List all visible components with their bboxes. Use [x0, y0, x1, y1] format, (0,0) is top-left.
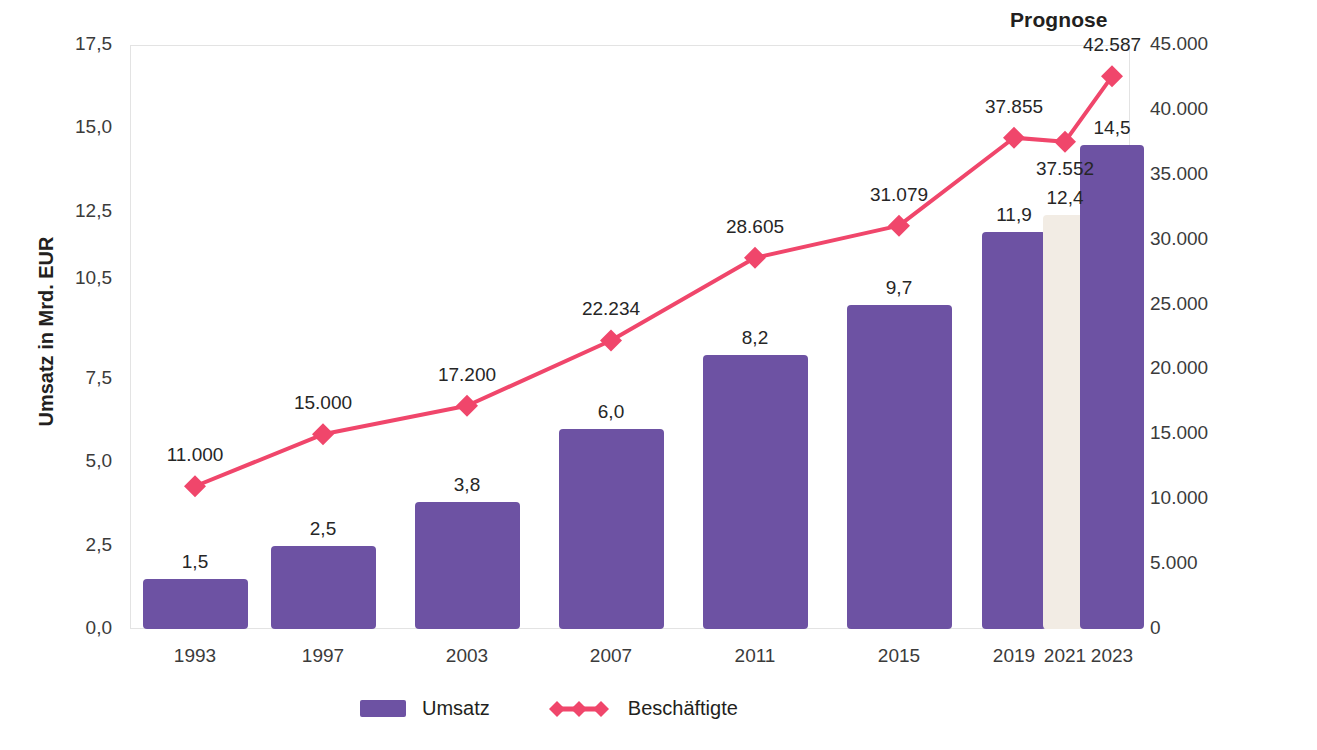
legend-item-umsatz[interactable]: Umsatz — [360, 697, 490, 720]
bar-2023[interactable] — [1080, 145, 1144, 629]
right-tick-label: 10.000 — [1150, 487, 1208, 509]
right-tick-label: 15.000 — [1150, 422, 1208, 444]
chart-root: Prognose Umsatz in Mrd. EUR Beschäftigte… — [0, 0, 1317, 750]
x-tick-label: 1997 — [273, 645, 373, 667]
left-tick-label: 2,5 — [40, 534, 112, 556]
left-tick-label: 12,5 — [40, 200, 112, 222]
left-tick-label: 7,5 — [40, 367, 112, 389]
bar-1993[interactable] — [143, 579, 248, 629]
prognose-annotation: Prognose — [1010, 8, 1108, 32]
bar-value-label-1997: 2,5 — [263, 518, 383, 540]
line-value-label-2021: 37.552 — [990, 158, 1140, 180]
legend-item-beschaeftigte[interactable]: Beschäftigte — [546, 697, 738, 720]
bar-value-label-2015: 9,7 — [839, 277, 959, 299]
left-tick-label: 17,5 — [40, 33, 112, 55]
bar-2019[interactable] — [982, 232, 1046, 629]
line-value-label-1993: 11.000 — [120, 444, 270, 466]
legend-label-beschaeftigte: Beschäftigte — [628, 697, 738, 720]
left-tick-label: 10,5 — [40, 267, 112, 289]
line-marker-swatch-icon — [546, 699, 612, 719]
bar-2011[interactable] — [703, 355, 808, 629]
legend-label-umsatz: Umsatz — [422, 697, 490, 720]
line-value-label-2003: 17.200 — [392, 364, 542, 386]
x-tick-label: 2015 — [849, 645, 949, 667]
bar-value-label-2023: 14,5 — [1052, 117, 1172, 139]
x-tick-label: 2007 — [561, 645, 661, 667]
right-tick-label: 0 — [1150, 617, 1161, 639]
x-tick-label: 2003 — [417, 645, 517, 667]
bar-value-label-2003: 3,8 — [407, 474, 527, 496]
bar-2015[interactable] — [847, 305, 952, 629]
bar-swatch-icon — [360, 700, 406, 717]
left-tick-label: 5,0 — [40, 450, 112, 472]
bar-2007[interactable] — [559, 429, 664, 629]
line-value-label-2015: 31.079 — [824, 184, 974, 206]
left-axis-title: Umsatz in Mrd. EUR — [35, 232, 58, 432]
bar-value-label-2021: 12,4 — [1005, 187, 1125, 209]
bar-1997[interactable] — [271, 546, 376, 629]
right-tick-label: 25.000 — [1150, 293, 1208, 315]
line-value-label-2011: 28.605 — [680, 216, 830, 238]
chart-legend: Umsatz Beschäftigte — [360, 697, 738, 720]
bar-value-label-1993: 1,5 — [135, 551, 255, 573]
bar-2003[interactable] — [415, 502, 520, 629]
right-tick-label: 5.000 — [1150, 552, 1198, 574]
line-value-label-2023: 42.587 — [1037, 34, 1187, 56]
x-tick-label: 1993 — [145, 645, 245, 667]
bar-value-label-2011: 8,2 — [695, 327, 815, 349]
x-tick-label: 2011 — [705, 645, 805, 667]
line-value-label-2007: 22.234 — [536, 298, 686, 320]
bar-value-label-2007: 6,0 — [551, 401, 671, 423]
line-value-label-1997: 15.000 — [248, 392, 398, 414]
right-tick-label: 30.000 — [1150, 228, 1208, 250]
x-tick-label: 2023 — [1062, 645, 1162, 667]
left-tick-label: 0,0 — [40, 617, 112, 639]
right-tick-label: 20.000 — [1150, 357, 1208, 379]
right-tick-label: 35.000 — [1150, 163, 1208, 185]
left-tick-label: 15,0 — [40, 116, 112, 138]
line-value-label-2019: 37.855 — [939, 96, 1089, 118]
